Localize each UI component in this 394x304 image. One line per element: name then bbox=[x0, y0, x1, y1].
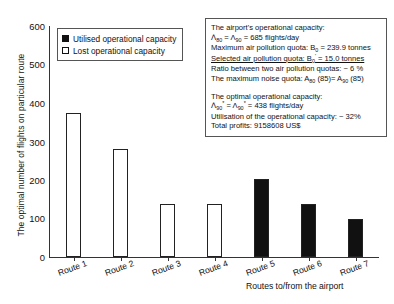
y-tick-400: 400 bbox=[29, 97, 50, 108]
x-tick-label-route-5: Route 5 bbox=[245, 258, 277, 278]
bar-route-5 bbox=[254, 179, 269, 257]
equals-lambda-star: = Λ bbox=[224, 101, 237, 110]
annotation-optimal-heading: The optimal operational capacity: bbox=[211, 92, 381, 102]
y-axis-title: The optimal number of flights on particu… bbox=[16, 30, 26, 260]
max-pollution-prefix: Maximum air pollution quota: B bbox=[211, 43, 315, 52]
lambda-star-sub-80: 90 bbox=[216, 105, 222, 111]
x-axis-title: Routes to/from the airport bbox=[246, 281, 343, 291]
lambda-star-mark-2: * bbox=[244, 100, 246, 106]
y-tick-300: 300 bbox=[29, 136, 50, 147]
lambda-star-mark-1: * bbox=[222, 100, 224, 106]
annotation-total-profits: Total profits: 9158608 US$ bbox=[211, 121, 381, 131]
a-sub-90: 90 bbox=[342, 78, 348, 84]
bar-route-7 bbox=[348, 219, 363, 257]
x-tick-label-route-6: Route 6 bbox=[292, 258, 324, 278]
annotation-pollution-ratio: Ratio between two air pollution quotas: … bbox=[211, 64, 381, 74]
bar-route-2 bbox=[113, 149, 128, 257]
b-prime-mark: ' bbox=[315, 53, 316, 59]
legend-label-lost: Lost operational capacity bbox=[73, 46, 165, 56]
annotation-max-pollution-quota: Maximum air pollution quota: B0 = 239.9 … bbox=[211, 43, 381, 54]
y-tick-200: 200 bbox=[29, 174, 50, 185]
lambda-star-sub-90: 90 bbox=[238, 105, 244, 111]
legend-swatch-open-icon bbox=[62, 47, 69, 54]
annotation-noise-quota: The maximum noise quota: A80 (85)= A90 (… bbox=[211, 74, 381, 85]
optimal-flights-value: = 438 flights/day bbox=[246, 101, 304, 110]
x-tick-label-route-2: Route 2 bbox=[103, 258, 135, 278]
selected-pollution-value: = 15.0 tonnes bbox=[316, 54, 364, 63]
x-tick-label-route-3: Route 3 bbox=[150, 258, 182, 278]
bar-route-1 bbox=[66, 113, 81, 257]
equals-lambda: = Λ bbox=[222, 33, 235, 42]
annotation-box: The airport's operational capacity: Λ80 … bbox=[205, 18, 387, 137]
a-sub-80: 80 bbox=[309, 78, 315, 84]
x-tick-label-route-4: Route 4 bbox=[198, 258, 230, 278]
legend-swatch-filled-icon bbox=[62, 35, 69, 42]
y-tick-100: 100 bbox=[29, 213, 50, 224]
annotation-spacer bbox=[211, 85, 381, 92]
annotation-capacity-value: Λ80 = Λ90 = 685 flights/day bbox=[211, 33, 381, 44]
noise-quota-prefix: The maximum noise quota: A bbox=[211, 74, 309, 83]
annotation-utilisation: Utilisation of the operational capacity:… bbox=[211, 112, 381, 122]
annotation-selected-pollution-quota: Selected air pollution quota: B0' = 15.0… bbox=[211, 54, 381, 65]
chart-figure: The optimal number of flights on particu… bbox=[0, 0, 394, 304]
legend-label-utilised: Utilised operational capacity bbox=[73, 34, 176, 44]
x-tick-label-route-1: Route 1 bbox=[56, 258, 88, 278]
bar-route-3 bbox=[160, 204, 175, 257]
annotation-optimal-value: Λ90* = Λ90* = 438 flights/day bbox=[211, 101, 381, 112]
y-tick-500: 500 bbox=[29, 59, 50, 70]
x-tick-label-route-7: Route 7 bbox=[339, 258, 371, 278]
bar-route-4 bbox=[207, 204, 222, 257]
legend-item-utilised: Utilised operational capacity bbox=[62, 33, 176, 44]
annotation-capacity-heading: The airport's operational capacity: bbox=[211, 23, 381, 33]
lambda-sub-80: 80 bbox=[216, 37, 222, 43]
lambda-sub-90: 90 bbox=[236, 37, 242, 43]
max-pollution-value: = 239.9 tonnes bbox=[318, 43, 371, 52]
noise-quota-mid: (85)= A bbox=[315, 74, 342, 83]
selected-pollution-prefix: Selected air pollution quota: B bbox=[211, 54, 312, 63]
bar-route-6 bbox=[301, 204, 316, 257]
capacity-flights-value: = 685 flights/day bbox=[242, 33, 300, 42]
legend-item-lost: Lost operational capacity bbox=[62, 45, 176, 56]
noise-quota-suffix: (85) bbox=[348, 74, 364, 83]
chart-legend: Utilised operational capacity Lost opera… bbox=[57, 28, 183, 61]
y-tick-600: 600 bbox=[29, 21, 50, 32]
